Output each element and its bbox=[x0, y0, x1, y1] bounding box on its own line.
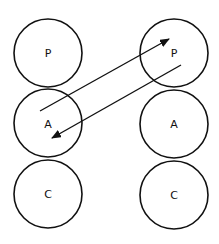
arrows bbox=[40, 39, 181, 138]
left-label-a: A bbox=[44, 118, 52, 131]
arrow-right-p-to-left-a bbox=[52, 65, 181, 138]
left-label-p: P bbox=[45, 47, 52, 60]
left-node-c: C bbox=[14, 160, 82, 228]
left-node-p: P bbox=[14, 19, 82, 87]
left-label-c: C bbox=[44, 188, 52, 201]
right-node-a: A bbox=[140, 90, 208, 158]
right-label-a: A bbox=[170, 118, 178, 131]
right-label-p: P bbox=[171, 47, 178, 60]
right-node-c: C bbox=[140, 161, 208, 229]
ego-state-transaction-diagram: P A C P A C bbox=[0, 0, 219, 244]
right-column: P A C bbox=[140, 19, 208, 229]
left-column: P A C bbox=[14, 19, 82, 228]
right-node-p: P bbox=[140, 19, 208, 87]
left-node-a: A bbox=[14, 89, 82, 157]
right-label-c: C bbox=[170, 189, 178, 202]
